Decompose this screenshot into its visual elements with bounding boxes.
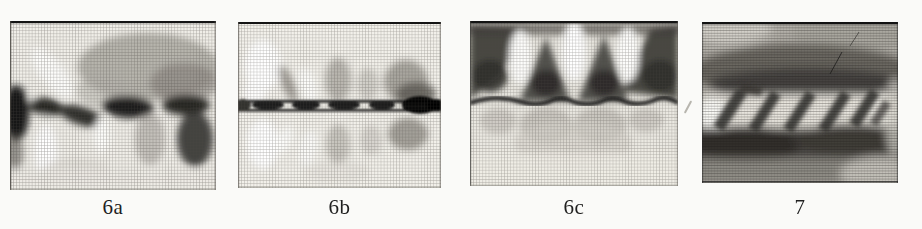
halftone-image-6b [238,22,441,188]
figure-label-6a: 6a [10,194,216,220]
scan-artifact-mark [684,100,692,113]
halftone-image-7 [702,22,898,183]
halftone-image-6a [10,21,216,190]
figure-panel-6c [470,21,678,186]
figure-label-6c: 6c [470,194,678,220]
halftone-image-6c [470,21,678,186]
scanned-figure-page: 6a 6b 6c 7 [0,0,922,229]
figure-panel-6a [10,21,216,190]
figure-label-7: 7 [702,194,898,220]
figure-panel-7 [702,22,898,183]
figure-panel-6b [238,22,441,188]
figure-label-6b: 6b [238,194,441,220]
